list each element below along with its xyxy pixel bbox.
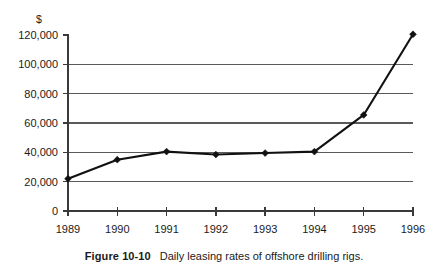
y-axis-tick-label: 120,000 — [18, 29, 58, 41]
x-axis-tick-label: 1993 — [253, 223, 277, 235]
y-axis-tick-label: 0 — [52, 205, 58, 217]
y-axis-tick-label: 60,000 — [24, 117, 58, 129]
figure-caption-text: Daily leasing rates of offshore drilling… — [160, 250, 363, 262]
x-axis-tick-label: 1994 — [302, 223, 326, 235]
x-axis-labels-group: 19891990199119921993199419951996 — [56, 223, 425, 235]
data-point-markers-group — [65, 31, 417, 182]
data-point-marker — [262, 150, 269, 157]
x-axis-tick-label: 1990 — [105, 223, 129, 235]
y-axis-labels-group: 020,00040,00060,00080,000100,000120,000 — [18, 29, 58, 217]
x-axis-tick-label: 1991 — [154, 223, 178, 235]
x-axis-tick-label: 1995 — [351, 223, 375, 235]
y-axis-tick-label: 80,000 — [24, 88, 58, 100]
y-axis-unit-label: $ — [36, 13, 42, 25]
x-axis-tick-label: 1996 — [401, 223, 425, 235]
x-axis-tick-label: 1989 — [56, 223, 80, 235]
data-point-marker — [114, 156, 121, 163]
y-axis-tick-label: 100,000 — [18, 58, 58, 70]
gridlines-group — [68, 64, 413, 181]
line-chart: 020,00040,00060,00080,000100,000120,000 … — [0, 0, 448, 248]
figure-container: 020,00040,00060,00080,000100,000120,000 … — [0, 0, 448, 275]
figure-caption-number: Figure 10-10 — [85, 250, 151, 262]
x-axis-tick-label: 1992 — [204, 223, 228, 235]
y-axis-tick-label: 40,000 — [24, 146, 58, 158]
y-axis-tick-label: 20,000 — [24, 176, 58, 188]
figure-caption: Figure 10-10Daily leasing rates of offsh… — [0, 249, 448, 264]
data-series-line — [68, 34, 413, 178]
data-point-marker — [163, 148, 170, 155]
